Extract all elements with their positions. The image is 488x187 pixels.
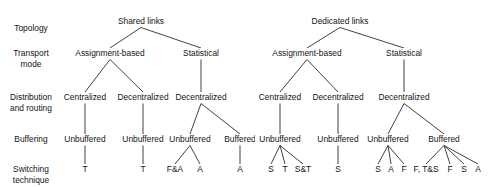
tree-leaf-leaf-13-f-t-s: F, T&S bbox=[414, 164, 439, 174]
tree-node-dedicated-ab-decentralized: Decentralized bbox=[312, 92, 364, 102]
edge-buf-5-to-leaf-8 bbox=[280, 146, 303, 165]
edge-shared-assignment-based-to-shared-ab-decentralized bbox=[110, 60, 143, 93]
row-label-topology: Topology bbox=[14, 23, 48, 33]
row-label-transport-mode: Transport bbox=[13, 48, 49, 58]
tree-leaf-leaf-3-f-a: F&A bbox=[167, 164, 184, 174]
edge-dedicated-st-decentralized-to-buf-7 bbox=[388, 104, 404, 135]
edge-shared-st-decentralized-to-buf-4 bbox=[201, 104, 240, 135]
tree-node-buf-1: Unbuffered bbox=[64, 134, 106, 144]
edge-shared-st-decentralized-to-buf-3 bbox=[190, 104, 201, 135]
edge-dedicated-links-to-dedicated-statistical bbox=[340, 28, 404, 49]
edge-buf-8-to-leaf-13 bbox=[426, 146, 444, 165]
tree-node-shared-ab-decentralized: Decentralized bbox=[117, 92, 169, 102]
edge-dedicated-links-to-dedicated-assignment-based bbox=[307, 28, 340, 49]
tree-leaf-leaf-11-a: A bbox=[388, 164, 394, 174]
edge-shared-links-to-shared-assignment-based bbox=[110, 28, 141, 49]
tree-leaf-leaf-8-s-t: S&T bbox=[295, 164, 311, 174]
edge-buf-5-to-leaf-7 bbox=[280, 146, 285, 165]
tree-node-buf-2: Unbuffered bbox=[122, 134, 164, 144]
tree-node-buf-4: Buffered bbox=[224, 134, 256, 144]
edge-dedicated-assignment-based-to-dedicated-ab-centralized bbox=[280, 60, 307, 93]
tree-leaf-leaf-9-s: S bbox=[335, 164, 341, 174]
tree-node-shared-ab-centralized: Centralized bbox=[64, 92, 107, 102]
tree-node-dedicated-links: Dedicated links bbox=[312, 16, 369, 26]
row-label-transport-mode: mode bbox=[21, 59, 42, 69]
edge-shared-links-to-shared-statistical bbox=[141, 28, 201, 49]
tree-node-buf-5: Unbuffered bbox=[259, 134, 301, 144]
tree-node-dedicated-assignment-based: Assignment-based bbox=[272, 48, 342, 58]
tree-leaf-leaf-1-t: T bbox=[82, 164, 87, 174]
taxonomy-tree-diagram: TopologyTransportmodeDistributionand rou… bbox=[0, 0, 488, 187]
tree-node-buf-6: Unbuffered bbox=[317, 134, 359, 144]
edge-buf-3-to-leaf-3 bbox=[175, 146, 190, 165]
row-label-switching-technique: technique bbox=[13, 175, 50, 185]
tree-node-buf-8: Buffered bbox=[428, 134, 460, 144]
tree-node-shared-st-decentralized: Decentralized bbox=[175, 92, 227, 102]
row-label-switching-technique: Switching bbox=[13, 164, 49, 174]
tree-leaf-leaf-14-f: F bbox=[447, 164, 452, 174]
tree-leaf-leaf-12-f: F bbox=[401, 164, 406, 174]
tree-leaf-leaf-2-t: T bbox=[140, 164, 145, 174]
tree-node-shared-links: Shared links bbox=[118, 16, 164, 26]
tree-leaf-leaf-6-s: S bbox=[268, 164, 274, 174]
tree-leaf-leaf-16-a: A bbox=[475, 164, 481, 174]
row-label-distribution-and-routing: Distribution bbox=[10, 92, 52, 102]
tree-node-dedicated-st-decentralized: Decentralized bbox=[378, 92, 430, 102]
edge-dedicated-assignment-based-to-dedicated-ab-decentralized bbox=[307, 60, 338, 93]
tree-leaf-leaf-7-t: T bbox=[282, 164, 287, 174]
row-label-distribution-and-routing: and routing bbox=[10, 103, 52, 113]
row-labels-layer: TopologyTransportmodeDistributionand rou… bbox=[10, 23, 52, 185]
tree-leaf-leaf-10-s: S bbox=[375, 164, 381, 174]
row-label-buffering: Buffering bbox=[14, 134, 48, 144]
tree-node-dedicated-statistical: Statistical bbox=[386, 48, 422, 58]
edge-buf-3-to-leaf-4 bbox=[190, 146, 200, 165]
tree-node-dedicated-ab-centralized: Centralized bbox=[259, 92, 302, 102]
edge-buf-5-to-leaf-6 bbox=[271, 146, 280, 165]
tree-node-shared-assignment-based: Assignment-based bbox=[75, 48, 145, 58]
tree-node-shared-statistical: Statistical bbox=[183, 48, 219, 58]
tree-svg-canvas: TopologyTransportmodeDistributionand rou… bbox=[0, 0, 488, 187]
tree-leaf-leaf-15-s: S bbox=[461, 164, 467, 174]
edge-shared-assignment-based-to-shared-ab-centralized bbox=[85, 60, 110, 93]
tree-node-buf-3: Unbuffered bbox=[169, 134, 211, 144]
tree-node-buf-7: Unbuffered bbox=[367, 134, 409, 144]
nodes-layer: Shared linksDedicated linksAssignment-ba… bbox=[58, 16, 482, 174]
edge-buf-7-to-leaf-10 bbox=[378, 146, 388, 165]
edge-dedicated-st-decentralized-to-buf-8 bbox=[404, 104, 444, 135]
tree-leaf-leaf-4-a: A bbox=[197, 164, 203, 174]
tree-leaf-leaf-5-a: A bbox=[237, 164, 243, 174]
